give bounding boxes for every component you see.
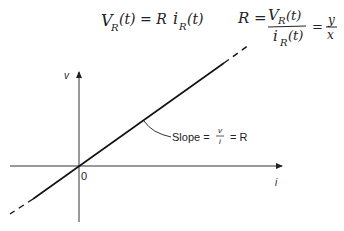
slope-prefix: Slope = xyxy=(172,131,210,143)
equals-sign: = xyxy=(312,19,323,34)
slope-annotation: Slope = v i = R xyxy=(172,126,247,146)
numerator-argument: (t) xyxy=(286,8,301,23)
denominator-i: i xyxy=(273,27,278,45)
rhs-argument: (t) xyxy=(187,11,204,27)
v-axis-label: v xyxy=(64,70,70,81)
slope-fraction-denominator: i xyxy=(219,137,221,146)
ratio-x: x xyxy=(327,28,334,42)
characteristic-line-extension-upper xyxy=(224,45,249,63)
r-equals: R = xyxy=(237,9,267,27)
denominator-argument: (t) xyxy=(288,28,303,43)
characteristic-line-extension-lower xyxy=(10,199,33,214)
i-axis-label: i xyxy=(275,177,278,188)
origin-label: 0 xyxy=(81,170,87,182)
i-symbol: i xyxy=(173,9,178,28)
numerator-subscript: R xyxy=(277,15,286,26)
lhs-argument: (t) = R xyxy=(119,11,167,27)
denominator-subscript: R xyxy=(279,37,288,48)
slope-suffix: = R xyxy=(230,131,247,143)
slope-leader-line xyxy=(144,121,171,137)
ohm-law-equation: V R (t) = R i R (t) xyxy=(101,9,204,33)
slope-fraction-numerator: v xyxy=(218,126,223,135)
vi-characteristic-diagram: V R (t) = R i R (t) R = V R (t) i R (t) … xyxy=(0,0,344,231)
i-subscript: R xyxy=(178,21,187,32)
v-subscript: R xyxy=(110,22,119,33)
ratio-y: y xyxy=(327,13,335,27)
resistance-equation: R = V R (t) i R (t) = y x xyxy=(237,6,337,48)
